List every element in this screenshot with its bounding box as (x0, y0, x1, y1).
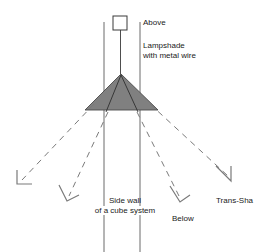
lampshade-triangle (85, 74, 158, 110)
ray-far-right (150, 104, 228, 176)
label-above: Above (143, 18, 166, 28)
label-side-wall-line1: Side wall (109, 196, 141, 205)
ray-mid-right (137, 112, 179, 196)
ray-mid-left (69, 112, 108, 196)
arrowhead-mid-left-icon (59, 185, 79, 201)
ray-far-left (22, 104, 94, 180)
label-lampshade: Lampshade with metal wire (143, 41, 196, 61)
label-trans-sha: Trans-Sha (216, 196, 253, 206)
arrowhead-far-right-icon (216, 166, 231, 181)
label-lampshade-line2: with metal wire (143, 51, 196, 60)
lampshade-diagram: Above Lampshade with metal wire Side wal… (0, 0, 270, 252)
label-side-wall: Side wall of a cube system (84, 196, 166, 216)
label-side-wall-line2: of a cube system (95, 206, 155, 215)
label-below: Below (172, 214, 194, 224)
ceiling-mount-box (113, 16, 127, 30)
label-lampshade-line1: Lampshade (143, 41, 185, 50)
arrowhead-mid-right-icon (170, 186, 190, 202)
